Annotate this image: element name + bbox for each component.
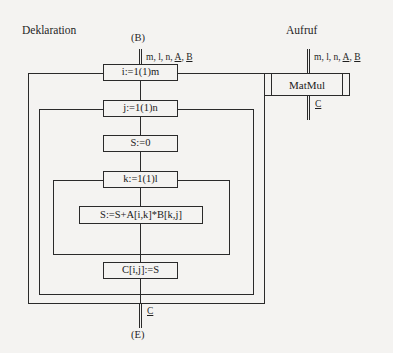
loop-return-right-j xyxy=(253,109,254,295)
declaration-section-title: Deklaration xyxy=(22,25,76,37)
call-input-dataflow-line xyxy=(307,49,310,73)
loop-return-right-k xyxy=(229,180,230,255)
dataflow-plain-text: m, l, n, xyxy=(146,52,175,62)
loop-header-box-j[interactable]: j:=1(1)n xyxy=(103,100,178,117)
call-input-dataflow-label: m, l, n, A, B xyxy=(314,53,360,63)
declaration-input-dataflow-label: m, l, n, A, B xyxy=(146,53,192,63)
loop-header-box-k[interactable]: k:=1(1)l xyxy=(103,171,178,188)
statement-box-assign-c[interactable]: C[i,j]:=S xyxy=(103,262,178,279)
dataflow-matrix-b: B xyxy=(186,52,192,62)
loop-header-box-i[interactable]: i:=1(1)m xyxy=(103,64,178,81)
call-section-title: Aufruf xyxy=(286,25,317,37)
begin-terminal-label: (B) xyxy=(131,33,145,44)
diagram-canvas: Deklaration (B) m, l, n, A, B i:=1(1)m j… xyxy=(0,0,393,353)
call-dataflow-matrix-b: B xyxy=(354,52,360,62)
declaration-output-dataflow-label: C xyxy=(147,307,153,317)
call-dataflow-plain-text: m, l, n, xyxy=(314,52,343,62)
statement-box-init-s[interactable]: S:=0 xyxy=(103,135,178,152)
loop-return-right-i xyxy=(264,73,265,304)
call-output-dataflow-label: C xyxy=(315,100,321,110)
call-output-dataflow-line xyxy=(307,96,310,120)
subroutine-call-box-matmul[interactable]: MatMul xyxy=(264,73,350,96)
end-terminal-label: (E) xyxy=(131,330,144,341)
statement-box-accumulate[interactable]: S:=S+A[i,k]*B[k,j] xyxy=(79,206,203,224)
declaration-output-dataflow-line xyxy=(139,304,142,328)
